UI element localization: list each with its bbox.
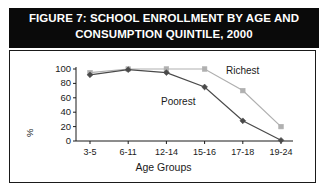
figure-title-line-1: FIGURE 7: SCHOOL ENROLLMENT BY AGE AND [9, 12, 319, 24]
chart-frame: % Age Groups 020406080100 3-56-1112-1415… [9, 50, 316, 183]
figure-container: FIGURE 7: SCHOOL ENROLLMENT BY AGE AND C… [0, 0, 328, 193]
series-label-poorest: Poorest [161, 96, 195, 107]
chart-plot-area: % Age Groups 020406080100 3-56-1112-1415… [10, 51, 317, 184]
figure-title-bar: FIGURE 7: SCHOOL ENROLLMENT BY AGE AND C… [9, 8, 319, 48]
chart-svg [10, 51, 317, 184]
series-label-richest: Richest [226, 65, 259, 76]
figure-title-line-2: CONSUMPTION QUINTILE, 2000 [9, 28, 319, 40]
